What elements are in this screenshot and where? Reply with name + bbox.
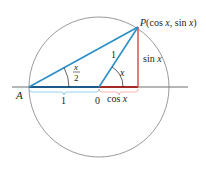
label-half-angle-num: x — [73, 62, 78, 72]
label-A: A — [15, 89, 23, 101]
label-sin: sin x — [143, 53, 162, 64]
label-origin: 0 — [95, 95, 100, 106]
segment-OP — [99, 27, 138, 87]
label-cos: cos x — [107, 93, 128, 104]
label-half-angle-den: 2 — [74, 73, 79, 83]
angle-arc-half — [64, 68, 69, 87]
label-angle-x: x — [119, 67, 125, 78]
unit-circle-diagram: A P(cos x, sin x) 0 1 1 x 2 x sin x cos … — [0, 0, 206, 170]
label-radius: 1 — [111, 49, 116, 60]
label-P: P(cos x, sin x) — [139, 17, 197, 29]
label-base-length: 1 — [61, 95, 66, 106]
